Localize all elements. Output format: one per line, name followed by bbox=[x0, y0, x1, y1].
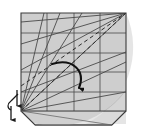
repeat-symbol-group bbox=[8, 90, 18, 120]
origami-diagram-figure: Origami folding step diagram Square shee… bbox=[0, 0, 150, 136]
diagram-canvas bbox=[0, 0, 150, 136]
